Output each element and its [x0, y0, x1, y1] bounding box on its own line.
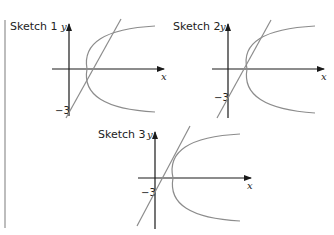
sketch-2-y-label: y — [219, 21, 226, 32]
sketch-1-y-label: y — [60, 21, 67, 32]
sketch-3-line — [137, 126, 190, 226]
sketch-2: Sketch 2 y x −3 — [173, 20, 327, 118]
sketch-1-title: Sketch 1 — [10, 20, 58, 33]
sketch-diagrams: Sketch 1 y x −3 Sketch 2 y x −3 Sketch 3… — [0, 0, 334, 235]
sketch-1-x-label: x — [161, 71, 167, 82]
sketch-3-y-intercept: −3 — [141, 187, 156, 198]
sketch-3-x-label: x — [247, 180, 253, 191]
sketch-2-title: Sketch 2 — [173, 20, 221, 33]
sketch-2-x-label: x — [321, 71, 327, 82]
sketch-3-title: Sketch 3 — [98, 128, 146, 141]
sketch-3-y-label: y — [146, 129, 153, 140]
sketch-3: Sketch 3 y x −3 — [98, 126, 253, 229]
sketch-1: Sketch 1 y x −3 — [10, 19, 167, 118]
